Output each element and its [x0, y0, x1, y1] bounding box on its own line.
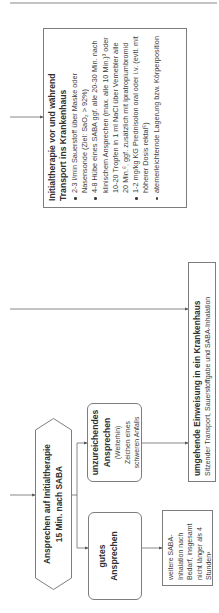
- decision-line-1: Ansprechen auf Initialtherapie: [42, 444, 54, 564]
- hospital-admission-content: umgehende Einweisung in ein Krankenhaus …: [188, 262, 216, 482]
- decision-text: Ansprechen auf Initialtherapie 15 Min. n…: [35, 418, 72, 590]
- decision-content: Ansprechen auf Initialtherapie 15 Min. n…: [35, 418, 72, 590]
- initial-therapy-item-text: 4-8 Hübe eines SABA ggf. alle 20-30 Min.…: [90, 37, 130, 193]
- initial-therapy-box: Initialtherapie vor und während Transpor…: [43, 28, 187, 208]
- initial-therapy-item: atemerleichternde Lagerung bzw. Körperpo…: [152, 34, 162, 201]
- hospital-admission-title: umgehende Einweisung in ein Krankenhaus: [191, 267, 203, 476]
- good-response-line-2: Ansprechen: [109, 513, 121, 599]
- initial-therapy-content: Initialtherapie vor und während Transpor…: [43, 28, 187, 208]
- good-response-content: gutes Ansprechen: [88, 512, 142, 600]
- initial-therapy-title: Initialtherapie vor und während Transpor…: [47, 34, 69, 201]
- bullet-icon: [156, 197, 159, 200]
- further-saba-content: weitere SABA-Inhalation nach Bedarf, ins…: [162, 510, 213, 586]
- insufficient-response-detail-1: (Weiterhin): [113, 404, 123, 481]
- initial-therapy-item: 2-3 l/min Sauerstoff über Maske oder Nas…: [70, 34, 90, 201]
- decision-line-2: 15 Min. nach SABA: [54, 466, 66, 542]
- insufficient-response-detail-3: schweren Anfalls: [132, 404, 142, 481]
- further-saba-box: weitere SABA-Inhalation nach Bedarf, ins…: [162, 510, 213, 586]
- further-saba-text: weitere SABA-Inhalation nach Bedarf, ins…: [167, 524, 212, 580]
- insufficient-response-detail-2: Zeichen eines: [123, 404, 133, 481]
- flowchart-canvas: Initialtherapie vor und während Transpor…: [0, 0, 219, 613]
- hospital-admission-box: umgehende Einweisung in ein Krankenhaus …: [188, 262, 216, 482]
- decision-hexagon: Ansprechen auf Initialtherapie 15 Min. n…: [35, 418, 72, 590]
- insufficient-response-box: unzureichendes Ansprechen (Weiterhin) Ze…: [87, 403, 142, 482]
- good-response-box: gutes Ansprechen: [88, 512, 142, 600]
- bullet-icon: [94, 197, 97, 200]
- initial-therapy-item: 1-2 mg/kg KG Prednisolon oral oder i.v. …: [131, 34, 151, 201]
- initial-therapy-item-text: 1-2 mg/kg KG Prednisolon oral oder i.v. …: [131, 36, 150, 193]
- initial-therapy-list: 2-3 l/min Sauerstoff über Maske oder Nas…: [70, 34, 162, 201]
- bullet-icon: [74, 197, 77, 200]
- initial-therapy-item: 4-8 Hübe eines SABA ggf. alle 20-30 Min.…: [90, 34, 131, 201]
- insufficient-response-line-2: Ansprechen: [102, 404, 114, 481]
- initial-therapy-item-text: atemerleichternde Lagerung bzw. Körperpo…: [152, 36, 161, 193]
- insufficient-response-line-1: unzureichendes: [90, 404, 102, 481]
- insufficient-response-content: unzureichendes Ansprechen (Weiterhin) Ze…: [87, 403, 142, 482]
- hospital-admission-detail: Sitzender Transport, Sauerstoffgabe und …: [203, 267, 213, 476]
- bullet-icon: [135, 197, 138, 200]
- initial-therapy-item-text: 2-3 l/min Sauerstoff über Maske oder Nas…: [70, 73, 89, 193]
- good-response-line-1: gutes: [97, 513, 109, 599]
